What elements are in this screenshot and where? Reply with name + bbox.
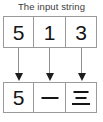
stroke: [41, 97, 58, 99]
input-cell-1: 1: [33, 17, 66, 47]
input-cell-1-value: 1: [44, 21, 56, 42]
arrow-head: [46, 73, 54, 81]
arrow-shaft: [81, 48, 82, 75]
input-cell-2-value: 3: [75, 21, 87, 42]
cjk-numeral-three-icon: [70, 88, 92, 108]
output-cell-1: [33, 83, 66, 112]
cjk-numeral-one-icon: [39, 88, 61, 108]
arrow-head: [15, 73, 23, 81]
figure-caption: The input string: [0, 1, 103, 13]
input-string-row: 5 1 3: [3, 16, 97, 48]
input-cell-2: 3: [66, 17, 96, 47]
output-symbol-row: 5: [3, 82, 97, 113]
arrow-shaft: [18, 48, 19, 75]
input-string-figure: The input string 5 1 3 5: [0, 0, 103, 122]
down-arrow-icon-2: [77, 48, 86, 82]
down-arrow-icon-0: [14, 48, 23, 82]
down-arrow-icon-1: [45, 48, 54, 82]
output-cell-0-value: 5: [13, 87, 25, 108]
arrow-shaft: [49, 48, 50, 75]
stroke: [74, 91, 89, 93]
output-cell-0: 5: [4, 83, 33, 112]
arrow-head: [78, 73, 86, 81]
stroke: [76, 97, 87, 99]
output-cell-2: [66, 83, 96, 112]
stroke: [72, 103, 90, 105]
input-cell-0: 5: [4, 17, 33, 47]
input-cell-0-value: 5: [13, 21, 25, 42]
